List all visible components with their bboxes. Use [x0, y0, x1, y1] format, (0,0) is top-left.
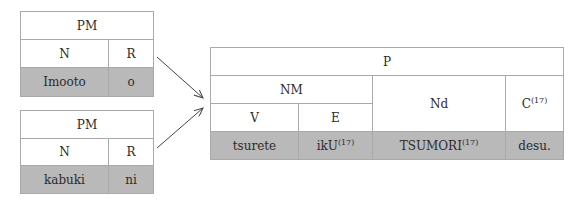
arrow-bottom — [157, 108, 203, 148]
p-title: P — [211, 48, 564, 76]
nd-superscript: (17) — [462, 138, 478, 147]
nd-header: Nd — [373, 76, 506, 132]
v-header: V — [211, 104, 299, 132]
arrow-top — [157, 57, 203, 98]
nd-value: TSUMORI(17) — [373, 132, 506, 160]
nm-header: NM — [211, 76, 373, 104]
c-superscript: (17) — [531, 96, 547, 105]
p-table: P NM Nd C(17) V E tsurete ikU(17) TSUMOR… — [210, 47, 564, 160]
e-header: E — [299, 104, 373, 132]
c-value: desu. — [506, 132, 564, 160]
c-header: C(17) — [506, 76, 564, 132]
v-value: tsurete — [211, 132, 299, 160]
e-superscript: (17) — [338, 138, 354, 147]
e-value: ikU(17) — [299, 132, 373, 160]
